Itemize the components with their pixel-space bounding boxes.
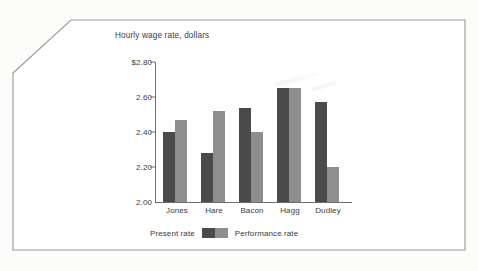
bar-group bbox=[201, 62, 225, 202]
legend-label-performance: Performance rate bbox=[235, 229, 298, 238]
x-tick-label-dudley: Dudley bbox=[315, 206, 341, 215]
x-tick-label-bacon: Bacon bbox=[240, 206, 263, 215]
legend-swatch-performance bbox=[215, 228, 228, 238]
bar-group bbox=[315, 62, 339, 202]
legend-swatch-present bbox=[202, 228, 215, 238]
x-axis-line bbox=[155, 202, 352, 203]
plot-area: Hourly wage rate, dollars $2.80 2.60 2.4… bbox=[0, 0, 478, 271]
bar bbox=[201, 153, 213, 202]
legend-label-present: Present rate bbox=[150, 229, 195, 238]
x-tick-label-jones: Jones bbox=[166, 206, 188, 215]
bars-layer bbox=[155, 62, 352, 202]
bar-group bbox=[163, 62, 187, 202]
bar bbox=[327, 167, 339, 202]
bar bbox=[277, 88, 289, 202]
bar bbox=[163, 132, 175, 202]
chart-title: Hourly wage rate, dollars bbox=[115, 31, 209, 40]
y-tick-label: 2.00 bbox=[136, 198, 152, 207]
bar bbox=[315, 102, 327, 202]
bar bbox=[175, 120, 187, 202]
chart-legend: Present rate Performance rate bbox=[150, 228, 298, 238]
legend-swatch bbox=[202, 228, 228, 238]
bar-group bbox=[277, 62, 301, 202]
bar-group bbox=[239, 62, 263, 202]
bar bbox=[213, 111, 225, 202]
x-tick-label-hagg: Hagg bbox=[280, 206, 300, 215]
x-tick-label-hare: Hare bbox=[205, 206, 223, 215]
bar bbox=[239, 108, 251, 203]
y-tick-label: $2.80 bbox=[131, 58, 152, 67]
figure: Hourly wage rate, dollars $2.80 2.60 2.4… bbox=[0, 0, 478, 271]
bar bbox=[289, 88, 301, 202]
bar bbox=[251, 132, 263, 202]
